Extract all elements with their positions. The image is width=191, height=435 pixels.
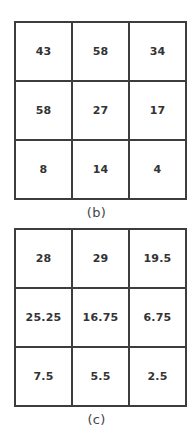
table-row: 8 14 4	[15, 140, 186, 199]
table-row: 43 58 34	[15, 22, 186, 81]
table-row: 58 27 17	[15, 81, 186, 140]
matrix-cell: 5.5	[72, 347, 129, 406]
matrix-cell: 25.25	[15, 288, 72, 347]
matrix-cell: 14	[72, 140, 129, 199]
table-row: 7.5 5.5 2.5	[15, 347, 186, 406]
table-row: 28 29 19.5	[15, 229, 186, 288]
matrix-cell: 19.5	[129, 229, 186, 288]
matrix-cell: 58	[15, 81, 72, 140]
matrix-cell: 7.5	[15, 347, 72, 406]
matrix-table-b: 43 58 34 58 27 17 8 14 4	[14, 21, 187, 200]
figure-b: 43 58 34 58 27 17 8 14 4 (b)	[14, 21, 179, 220]
matrix-cell: 58	[72, 22, 129, 81]
matrix-table-c: 28 29 19.5 25.25 16.75 6.75 7.5 5.5 2.5	[14, 228, 187, 407]
matrix-cell: 28	[15, 229, 72, 288]
matrix-cell: 27	[72, 81, 129, 140]
matrix-cell: 34	[129, 22, 186, 81]
figure-caption-c: (c)	[14, 412, 179, 427]
matrix-cell: 43	[15, 22, 72, 81]
figure-stack: 43 58 34 58 27 17 8 14 4 (b)	[0, 0, 191, 435]
matrix-cell: 16.75	[72, 288, 129, 347]
matrix-cell: 2.5	[129, 347, 186, 406]
matrix-cell: 17	[129, 81, 186, 140]
table-row: 25.25 16.75 6.75	[15, 288, 186, 347]
matrix-cell: 4	[129, 140, 186, 199]
figure-caption-b: (b)	[14, 205, 179, 220]
matrix-cell: 6.75	[129, 288, 186, 347]
figure-c: 28 29 19.5 25.25 16.75 6.75 7.5 5.5 2.5 …	[14, 228, 179, 427]
matrix-cell: 8	[15, 140, 72, 199]
matrix-cell: 29	[72, 229, 129, 288]
